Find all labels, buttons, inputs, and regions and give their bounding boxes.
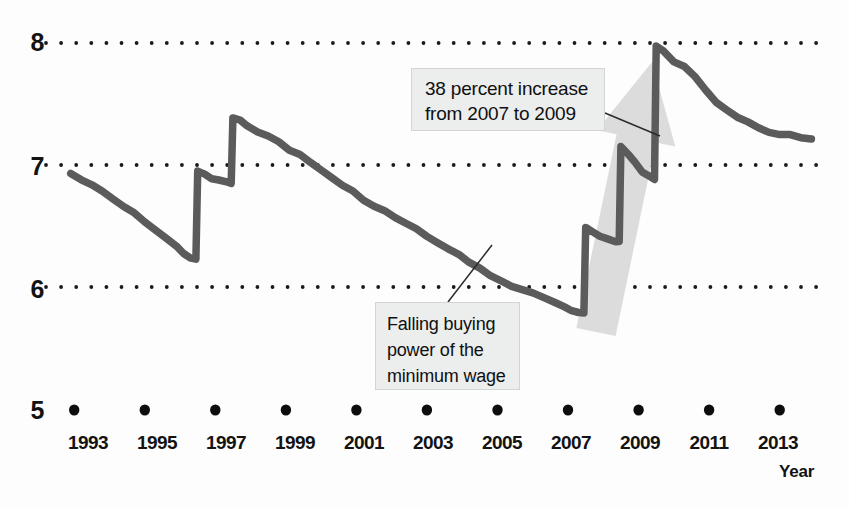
y-tick-label-5: 5	[14, 396, 44, 425]
x-axis-tick-dots	[69, 404, 785, 415]
x-tick-label-2011: 2011	[679, 432, 739, 454]
y-tick-label-8: 8	[14, 28, 44, 57]
annotation-falling-line-2: power of the	[387, 337, 519, 363]
chart-container: 8 7 6 5 1993 1995 1997 1999 2001 2003 20…	[0, 0, 849, 507]
x-tick-label-2013: 2013	[748, 432, 808, 454]
x-tick-label-2003: 2003	[403, 432, 463, 454]
x-axis-title: Year	[779, 462, 814, 482]
x-tick-label-2005: 2005	[472, 432, 532, 454]
x-tick-label-1999: 1999	[265, 432, 325, 454]
y-tick-label-7: 7	[14, 152, 44, 181]
x-tick-label-2009: 2009	[610, 432, 670, 454]
x-tick-label-2007: 2007	[541, 432, 601, 454]
annotation-falling-power: Falling buying power of the minimum wage	[375, 302, 520, 390]
x-tick-label-2001: 2001	[334, 432, 394, 454]
annotation-falling-line-1: Falling buying	[387, 311, 519, 337]
x-tick-label-1993: 1993	[58, 432, 118, 454]
annotation-falling-line-3: minimum wage	[387, 363, 519, 389]
annotation-increase-line-1: 38 percent increase	[425, 76, 604, 101]
x-tick-label-1995: 1995	[127, 432, 187, 454]
annotation-increase-line-2: from 2007 to 2009	[425, 101, 604, 126]
y-tick-label-6: 6	[14, 275, 44, 304]
x-tick-label-1997: 1997	[196, 432, 256, 454]
annotation-increase: 38 percent increase from 2007 to 2009	[411, 68, 605, 131]
